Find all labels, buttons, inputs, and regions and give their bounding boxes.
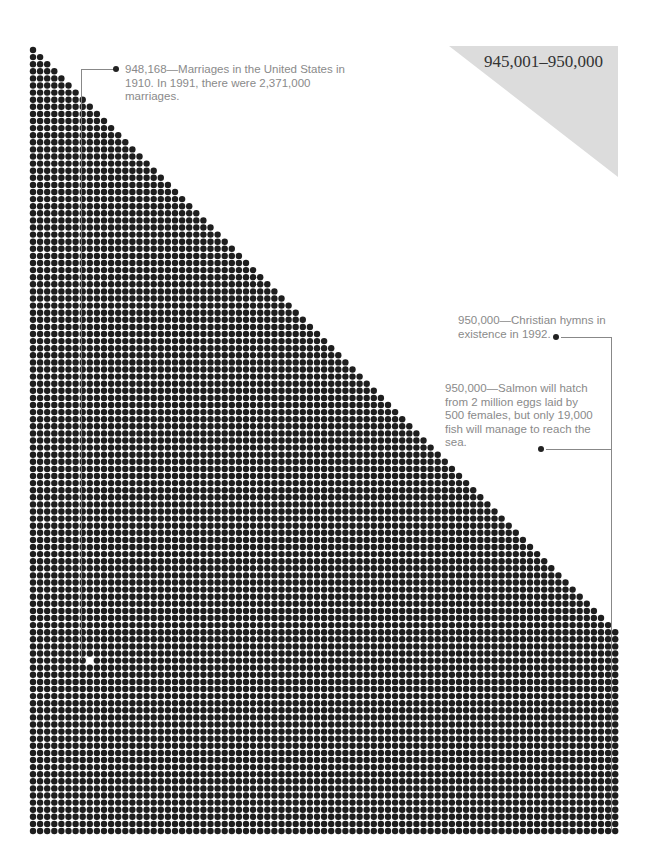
annotation-1-bullet-icon: [113, 66, 119, 72]
annotation-1-leader-horizontal: [81, 69, 115, 70]
annotation-3-leader-horizontal: [546, 449, 612, 450]
annotation-2-bullet-icon: [553, 334, 559, 340]
annotation-salmon: 950,000—Salmon will hatch from 2 million…: [445, 382, 595, 450]
annotations-right-leader-vertical: [611, 337, 612, 832]
range-label: 945,001–950,000: [484, 52, 603, 72]
annotation-1-leader-vertical: [81, 69, 82, 660]
annotation-2-leader-horizontal: [561, 337, 612, 338]
annotation-3-bullet-icon: [538, 446, 544, 452]
annotation-marriages: 948,168—Marriages in the United States i…: [125, 63, 355, 104]
